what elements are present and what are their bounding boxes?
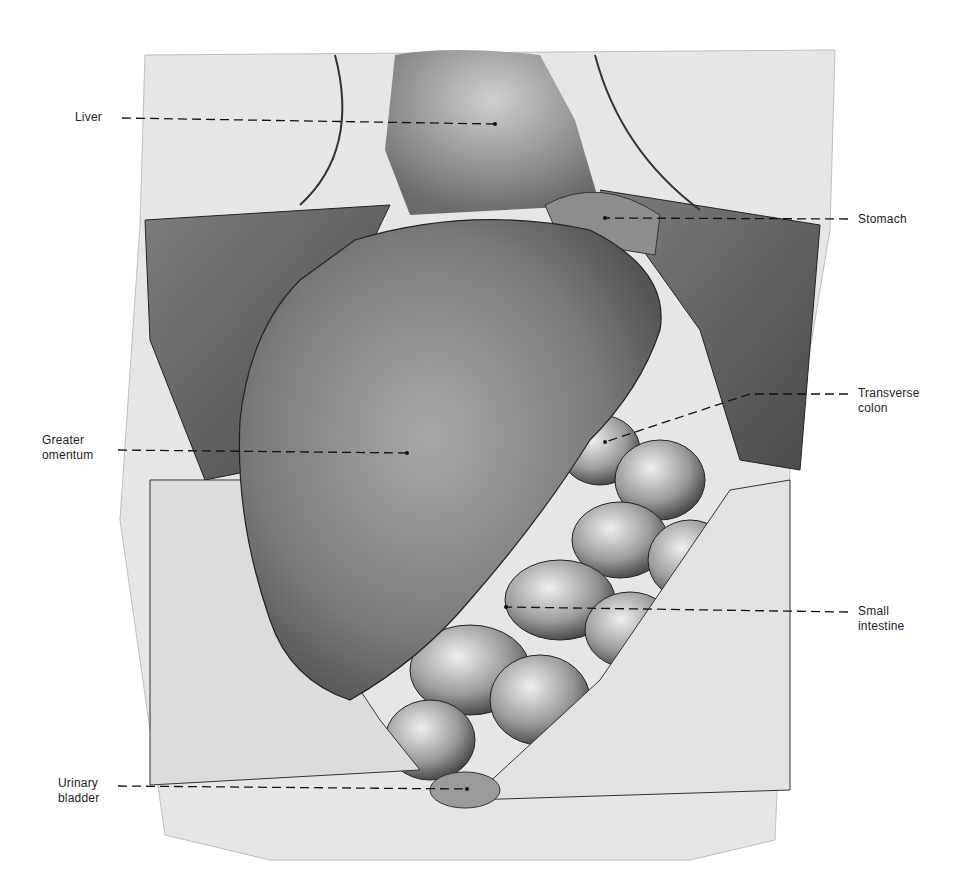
label-transverse-colon-line1: Transverse: [858, 386, 920, 401]
label-transverse-colon-line2: colon: [858, 401, 920, 416]
label-urinary-bladder: Urinary bladder: [58, 776, 99, 806]
label-liver: Liver: [75, 110, 102, 125]
label-greater-omentum-line1: Greater: [42, 433, 93, 448]
label-small-intestine: Small intestine: [858, 604, 905, 634]
label-urinary-bladder-line1: Urinary: [58, 776, 99, 791]
label-greater-omentum-line2: omentum: [42, 448, 93, 463]
anatomical-figure: Liver Stomach Transverse colon Greater o…: [0, 0, 977, 886]
label-stomach: Stomach: [858, 212, 907, 227]
label-stomach-text: Stomach: [858, 212, 907, 226]
label-urinary-bladder-line2: bladder: [58, 791, 99, 806]
label-small-intestine-line1: Small: [858, 604, 905, 619]
label-small-intestine-line2: intestine: [858, 619, 905, 634]
urinary-bladder: [430, 772, 500, 808]
label-liver-text: Liver: [75, 110, 102, 124]
label-transverse-colon: Transverse colon: [858, 386, 920, 416]
label-greater-omentum: Greater omentum: [42, 433, 93, 463]
abdomen-illustration: [0, 0, 977, 886]
